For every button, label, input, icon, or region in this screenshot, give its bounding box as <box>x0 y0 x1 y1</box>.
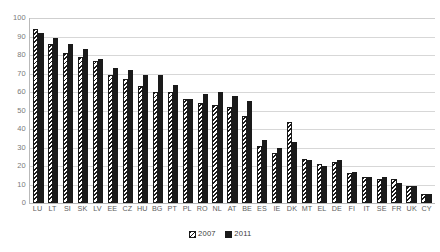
bar-group <box>359 18 374 203</box>
bar-2011-IT <box>367 177 372 203</box>
bar-group <box>315 18 330 203</box>
bar-2011-LT <box>53 38 58 203</box>
bar-2011-FI <box>352 172 357 203</box>
x-axis-tick-label: FR <box>389 205 404 219</box>
bar-group <box>419 18 434 203</box>
legend-label: 2007 <box>198 230 216 238</box>
bar-group <box>300 18 315 203</box>
chart-legend: 20072011 <box>0 226 440 242</box>
y-axis-tick-label: 80 <box>0 51 26 59</box>
y-axis-tick-label: 40 <box>0 125 26 133</box>
bar-2011-SI <box>68 44 73 203</box>
bar-group <box>91 18 106 203</box>
bar-2011-DE <box>337 160 342 203</box>
bar-2011-CY <box>426 194 431 203</box>
y-axis-tick-label: 50 <box>0 107 26 115</box>
bar-2011-EL <box>322 166 327 203</box>
x-axis-tick-label: BG <box>150 205 165 219</box>
bar-2011-LU <box>38 33 43 203</box>
bar-2011-EE <box>113 68 118 203</box>
plot-wrapper: 0102030405060708090100 LULTSISKLVEECZHUB… <box>0 0 440 215</box>
bar-group <box>285 18 300 203</box>
x-axis-tick-label: PT <box>165 205 180 219</box>
plot-area <box>29 18 435 204</box>
x-axis-tick-label: IE <box>270 205 285 219</box>
x-axis-tick-label: DE <box>329 205 344 219</box>
bar-chart: 0102030405060708090100 LULTSISKLVEECZHUB… <box>0 0 440 252</box>
bar-2011-CZ <box>128 70 133 203</box>
bar-group <box>210 18 225 203</box>
x-axis-tick-label: CZ <box>120 205 135 219</box>
bar-group <box>329 18 344 203</box>
bar-2011-FR <box>397 183 402 203</box>
bar-2011-NL <box>218 92 223 203</box>
bar-2011-RO <box>203 94 208 203</box>
bar-2011-UK <box>412 186 417 203</box>
bar-2011-DK <box>292 142 297 203</box>
bar-group <box>195 18 210 203</box>
bar-2011-SE <box>382 177 387 203</box>
x-axis-tick-label: EL <box>314 205 329 219</box>
bar-group <box>344 18 359 203</box>
bar-group <box>106 18 121 203</box>
x-axis-tick-label: DK <box>284 205 299 219</box>
y-axis-tick-label: 20 <box>0 162 26 170</box>
bar-group <box>404 18 419 203</box>
x-axis: LULTSISKLVEECZHUBGPTPLRONLATBEESIEDKMTEL… <box>29 205 435 219</box>
x-axis-tick-label: UK <box>404 205 419 219</box>
bar-group <box>121 18 136 203</box>
x-axis-tick-label: SI <box>60 205 75 219</box>
x-axis-tick-label: IT <box>359 205 374 219</box>
solid-swatch <box>225 231 232 238</box>
bar-group <box>150 18 165 203</box>
x-axis-tick-label: NL <box>210 205 225 219</box>
bar-2011-AT <box>232 96 237 203</box>
bar-2011-SK <box>83 49 88 203</box>
bar-2011-HU <box>143 75 148 203</box>
x-axis-tick-label: MT <box>299 205 314 219</box>
x-axis-tick-label: LT <box>45 205 60 219</box>
bar-2011-PT <box>173 85 178 203</box>
x-axis-tick-label: RO <box>195 205 210 219</box>
bar-group <box>180 18 195 203</box>
bar-group <box>31 18 46 203</box>
legend-item-2007[interactable]: 2007 <box>189 230 216 238</box>
legend-label: 2011 <box>234 230 251 238</box>
x-axis-tick-label: PL <box>180 205 195 219</box>
x-axis-tick-label: SK <box>75 205 90 219</box>
legend-item-2011[interactable]: 2011 <box>225 230 252 238</box>
bar-groups <box>30 18 435 203</box>
x-axis-tick-label: BE <box>240 205 255 219</box>
bar-group <box>374 18 389 203</box>
bar-group <box>135 18 150 203</box>
y-axis-tick-label: 10 <box>0 181 26 189</box>
bar-2011-LV <box>98 59 103 203</box>
bar-group <box>165 18 180 203</box>
x-axis-tick-label: LV <box>90 205 105 219</box>
bar-2011-PL <box>188 99 193 203</box>
bar-group <box>225 18 240 203</box>
x-axis-tick-label: LU <box>30 205 45 219</box>
x-axis-tick-label: CY <box>419 205 434 219</box>
bar-2011-ES <box>262 140 267 203</box>
y-axis-tick-label: 60 <box>0 88 26 96</box>
bar-group <box>255 18 270 203</box>
y-axis: 0102030405060708090100 <box>0 12 26 201</box>
bar-group <box>61 18 76 203</box>
x-axis-tick-label: EE <box>105 205 120 219</box>
y-axis-tick-label: 90 <box>0 33 26 41</box>
x-axis-tick-label: ES <box>255 205 270 219</box>
bar-group <box>240 18 255 203</box>
x-axis-tick-label: HU <box>135 205 150 219</box>
bar-2011-MT <box>307 160 312 203</box>
y-axis-tick-label: 100 <box>0 14 26 22</box>
y-axis-tick-label: 30 <box>0 144 26 152</box>
bar-group <box>76 18 91 203</box>
x-axis-tick-label: AT <box>225 205 240 219</box>
bar-2011-BG <box>158 75 163 203</box>
bar-group <box>270 18 285 203</box>
bar-group <box>46 18 61 203</box>
y-axis-tick-label: 0 <box>0 199 26 207</box>
hatch-swatch <box>189 231 196 238</box>
bar-2011-BE <box>247 101 252 203</box>
